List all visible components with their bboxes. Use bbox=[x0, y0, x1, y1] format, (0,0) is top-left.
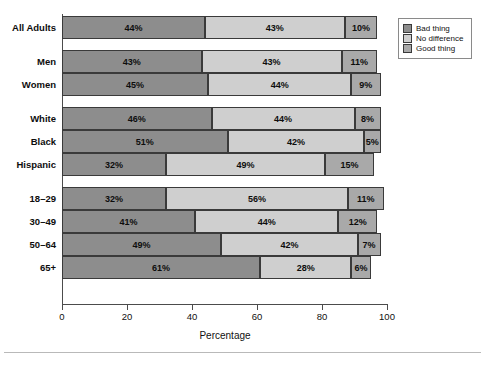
bar-segment[interactable]: 56% bbox=[166, 187, 348, 210]
chart-legend: Bad thing No difference Good thing bbox=[398, 18, 472, 59]
category-label: Black bbox=[0, 130, 56, 153]
legend-label-bad-thing: Bad thing bbox=[416, 24, 450, 33]
bar-segment-label: 44% bbox=[274, 114, 292, 124]
bar-segment-label: 61% bbox=[152, 263, 170, 273]
bar-segment-label: 7% bbox=[363, 240, 376, 250]
bar-segment[interactable]: 44% bbox=[195, 210, 338, 233]
bar-segment-label: 42% bbox=[287, 137, 305, 147]
bar-segment-label: 12% bbox=[349, 217, 367, 227]
bar-segment-label: 44% bbox=[271, 80, 289, 90]
bar-segment-label: 9% bbox=[359, 80, 372, 90]
bar-segment[interactable]: 7% bbox=[358, 233, 381, 256]
bar-segment[interactable]: 11% bbox=[348, 187, 384, 210]
legend-item-no-difference[interactable]: No difference bbox=[403, 34, 467, 43]
x-tick-mark bbox=[127, 305, 128, 310]
bar-segment[interactable]: 42% bbox=[221, 233, 358, 256]
bar-segment[interactable]: 43% bbox=[62, 50, 202, 73]
bar-segment-label: 32% bbox=[105, 160, 123, 170]
category-label: Women bbox=[0, 73, 56, 96]
bar-segment-label: 10% bbox=[352, 23, 370, 33]
category-label: 30–49 bbox=[0, 210, 56, 233]
bar-segment[interactable]: 10% bbox=[345, 16, 378, 39]
bar-segment-label: 43% bbox=[266, 23, 284, 33]
bar-segment-label: 45% bbox=[126, 80, 144, 90]
bar-segment[interactable]: 5% bbox=[364, 130, 380, 153]
legend-item-bad-thing[interactable]: Bad thing bbox=[403, 24, 467, 33]
bar-segment-label: 28% bbox=[297, 263, 315, 273]
legend-swatch-no-difference bbox=[403, 34, 412, 43]
category-label: Hispanic bbox=[0, 153, 56, 176]
bar-segment[interactable]: 6% bbox=[351, 256, 371, 279]
category-label: White bbox=[0, 107, 56, 130]
bar-segment-label: 56% bbox=[248, 194, 266, 204]
bar-segment[interactable]: 44% bbox=[212, 107, 355, 130]
bar-segment-label: 11% bbox=[351, 57, 369, 67]
x-tick-label: 0 bbox=[59, 311, 64, 322]
bar-row: Women45%44%9% bbox=[0, 73, 485, 96]
bar-segment-label: 5% bbox=[366, 137, 379, 147]
bar-row: 30–4941%44%12% bbox=[0, 210, 485, 233]
bar-segment-label: 43% bbox=[123, 57, 141, 67]
bar-segment-label: 15% bbox=[341, 160, 359, 170]
bar-segment[interactable]: 32% bbox=[62, 187, 166, 210]
bar-segment[interactable]: 42% bbox=[228, 130, 365, 153]
x-tick-label: 80 bbox=[317, 311, 328, 322]
x-tick-mark bbox=[257, 305, 258, 310]
category-label: 50–64 bbox=[0, 233, 56, 256]
x-axis-line bbox=[62, 304, 388, 305]
category-label: 18–29 bbox=[0, 187, 56, 210]
bar-segment-label: 42% bbox=[280, 240, 298, 250]
bar-segment-label: 32% bbox=[105, 194, 123, 204]
bar-segment-label: 49% bbox=[237, 160, 255, 170]
bar-segment[interactable]: 28% bbox=[260, 256, 351, 279]
legend-item-good-thing[interactable]: Good thing bbox=[403, 44, 467, 53]
bar-segment[interactable]: 45% bbox=[62, 73, 208, 96]
legend-swatch-good-thing bbox=[403, 44, 412, 53]
bar-segment[interactable]: 46% bbox=[62, 107, 212, 130]
bar-segment[interactable]: 15% bbox=[325, 153, 374, 176]
bar-segment-label: 46% bbox=[128, 114, 146, 124]
bar-segment[interactable]: 61% bbox=[62, 256, 260, 279]
bar-segment[interactable]: 11% bbox=[342, 50, 378, 73]
bar-row: 65+61%28%6% bbox=[0, 256, 485, 279]
bar-row: 50–6449%42%7% bbox=[0, 233, 485, 256]
bar-segment[interactable]: 9% bbox=[351, 73, 380, 96]
x-tick-mark bbox=[322, 305, 323, 310]
bar-segment-label: 8% bbox=[361, 114, 374, 124]
bar-segment[interactable]: 32% bbox=[62, 153, 166, 176]
category-label: 65+ bbox=[0, 256, 56, 279]
category-label: Men bbox=[0, 50, 56, 73]
x-axis-title: Percentage bbox=[0, 330, 450, 341]
bar-segment-label: 6% bbox=[354, 263, 367, 273]
bar-segment[interactable]: 41% bbox=[62, 210, 195, 233]
x-tick-label: 40 bbox=[187, 311, 198, 322]
bar-segment[interactable]: 51% bbox=[62, 130, 228, 153]
bar-segment-label: 44% bbox=[258, 217, 276, 227]
bar-segment[interactable]: 44% bbox=[62, 16, 205, 39]
legend-label-no-difference: No difference bbox=[416, 34, 463, 43]
bar-segment[interactable]: 49% bbox=[166, 153, 325, 176]
legend-swatch-bad-thing bbox=[403, 24, 412, 33]
bar-row: 18–2932%56%11% bbox=[0, 187, 485, 210]
x-tick-mark bbox=[192, 305, 193, 310]
x-tick-label: 60 bbox=[252, 311, 263, 322]
bar-segment-label: 43% bbox=[263, 57, 281, 67]
bar-row: Black51%42%5% bbox=[0, 130, 485, 153]
bar-segment[interactable]: 44% bbox=[208, 73, 351, 96]
bar-segment[interactable]: 43% bbox=[205, 16, 345, 39]
x-tick-label: 100 bbox=[379, 311, 395, 322]
bar-segment-label: 51% bbox=[136, 137, 154, 147]
category-label: All Adults bbox=[0, 16, 56, 39]
bar-segment-label: 11% bbox=[357, 194, 375, 204]
bar-segment[interactable]: 43% bbox=[202, 50, 342, 73]
bar-segment-label: 49% bbox=[133, 240, 151, 250]
legend-label-good-thing: Good thing bbox=[416, 44, 455, 53]
bar-segment[interactable]: 8% bbox=[355, 107, 381, 130]
bar-segment-label: 41% bbox=[120, 217, 138, 227]
bar-segment[interactable]: 12% bbox=[338, 210, 377, 233]
bar-segment-label: 44% bbox=[124, 23, 142, 33]
bar-row: Hispanic32%49%15% bbox=[0, 153, 485, 176]
x-tick-label: 20 bbox=[122, 311, 133, 322]
x-tick-mark bbox=[62, 305, 63, 310]
bar-segment[interactable]: 49% bbox=[62, 233, 221, 256]
